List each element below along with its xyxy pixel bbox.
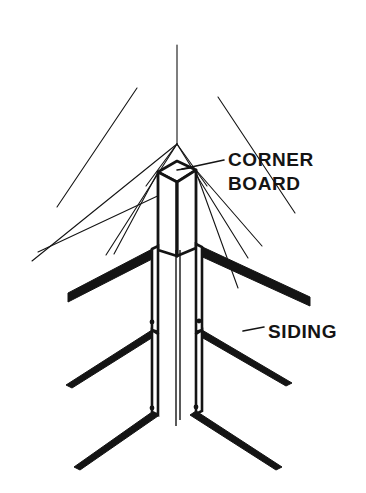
corner-board-label-line1: CORNER [228,149,314,170]
nail-head [150,320,155,325]
corner-board-left-face [158,172,177,256]
nail-head [197,319,202,324]
corner-board-siding-figure: CORNER BOARD SIDING [0,0,366,493]
technical-drawing-canvas: CORNER BOARD SIDING [0,0,366,493]
nail-head [150,406,155,411]
siding-course-2-right-return [196,330,202,414]
corner-board-box [158,161,196,256]
corner-board-label-line2: BOARD [228,173,301,194]
corner-board-right-face [177,170,196,256]
siding-course-1-left-return [152,246,158,332]
siding-course-2-left-return [152,330,158,415]
nail-head [194,405,199,410]
siding-label: SIDING [268,321,337,342]
